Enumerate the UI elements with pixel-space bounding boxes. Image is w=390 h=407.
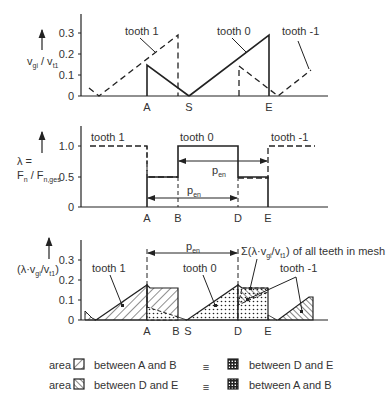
label-tooth-minus1-bot: tooth -1 (280, 262, 317, 274)
legend-text2: between A and B (249, 379, 332, 391)
xmark-A-mid: A (143, 212, 151, 224)
legend-swatch-hatch-fwd (74, 379, 84, 389)
legend-row-2: area between D and E ≡ between A and B (49, 379, 332, 393)
area-tooth-minus1-main (278, 297, 313, 320)
legend-text2: between D and E (249, 359, 333, 371)
leader-sum (250, 259, 257, 289)
legend-text: between A and B (94, 359, 177, 371)
leader-dot-tooth-minus1-a (246, 298, 249, 301)
label-tooth-1-mid: tooth 1 (91, 131, 125, 143)
leader-tooth-0-top (232, 38, 246, 52)
chart-sliding-velocity: vgi / vt1 0 0.1 0.2 0.3 tooth 1 tooth 0 … (27, 14, 328, 113)
area-tooth-minus1-tail (268, 315, 277, 320)
ytick-label: 0.1 (59, 294, 74, 306)
leader-tooth-1-top (140, 38, 155, 52)
xmark-A-bot: A (143, 325, 151, 337)
series-tooth-1-active (147, 65, 189, 96)
ytick-label: 0.1 (59, 69, 74, 81)
xmark-E-top: E (265, 101, 272, 113)
yticks-mid: 0 0.5 1.0 (59, 140, 81, 213)
label-tooth-minus1-mid: tooth -1 (271, 131, 308, 143)
sum-label: Σ(λ·vgi/vt1) of all teeth in mesh (241, 245, 385, 260)
area-tooth-0-main (187, 285, 238, 320)
chart-load-share: λ = Fn / Fn,ges 0 0.5 1.0 pen pen tooth … (17, 126, 328, 224)
dimension-label-AD: pen (187, 184, 201, 198)
label-tooth-0-bot: tooth 0 (183, 262, 217, 274)
ytick-label: 0.3 (59, 254, 74, 266)
ytick-label: 0.5 (59, 171, 74, 183)
ylabel-mid-line1: λ = (17, 155, 32, 167)
yticks-top: 0 0.1 0.2 0.3 (59, 27, 81, 102)
xmark-E-mid: E (264, 212, 271, 224)
ytick-label: 0 (68, 314, 74, 326)
xmark-A-top: A (143, 101, 151, 113)
chart-product: (λ·vgi/vt1) 0 0.1 0.2 0.3 (17, 238, 385, 337)
series-tooth-1-dashed (89, 35, 178, 96)
label-tooth-0-top: tooth 0 (217, 25, 251, 37)
series-tooth-minus1-dashed (239, 66, 311, 96)
xmark-S-bot: S (184, 325, 191, 337)
leader-dot-sum (249, 287, 252, 290)
label-tooth-0-mid: tooth 0 (180, 131, 214, 143)
xmark-D-bot: D (234, 325, 242, 337)
xmark-S-top: S (185, 101, 192, 113)
ytick-label: 1.0 (59, 140, 74, 152)
ytick-label: 0.3 (59, 27, 74, 39)
legend-prefix: area (49, 379, 72, 391)
series-tooth-minus1-mid (238, 146, 315, 178)
legend-swatch-hatch-back (74, 359, 84, 369)
legend-prefix: area (49, 359, 72, 371)
label-tooth-minus1-top: tooth -1 (282, 25, 319, 37)
ylabel-mid-line2: Fn / Fn,ges (17, 169, 61, 184)
xmark-B-mid: B (174, 212, 181, 224)
label-tooth-1-bot: tooth 1 (92, 262, 126, 274)
ylabel-top: vgi / vt1 (27, 55, 59, 70)
ytick-label: 0 (68, 90, 74, 102)
series-tooth-0 (189, 35, 269, 96)
legend-swatch-dots (228, 359, 238, 369)
yticks-bot: 0 0.1 0.2 0.3 (59, 254, 81, 326)
diagram-svg: vgi / vt1 0 0.1 0.2 0.3 tooth 1 tooth 0 … (0, 0, 390, 407)
legend-row-1: area between A and B ≡ between D and E (49, 359, 333, 373)
ytick-label: 0 (68, 201, 74, 213)
label-tooth-1-top: tooth 1 (125, 25, 159, 37)
ylabel-bot: (λ·vgi/vt1) (17, 263, 59, 278)
leader-dot-tooth-1 (121, 304, 124, 307)
legend-equiv: ≡ (203, 361, 209, 373)
leader-tooth-minus1-top (298, 41, 309, 69)
leader-tooth-0-bot (203, 275, 215, 305)
ytick-label: 0.2 (59, 274, 74, 286)
dimension-label-bot: pen (186, 240, 200, 254)
area-tooth-1 (85, 311, 96, 320)
leader-dot-tooth-minus1-b (300, 310, 303, 313)
leader-dot-tooth-0 (214, 304, 217, 307)
legend-text: between D and E (94, 379, 178, 391)
legend-equiv: ≡ (203, 381, 209, 393)
diagram-stage: vgi / vt1 0 0.1 0.2 0.3 tooth 1 tooth 0 … (0, 0, 390, 407)
xmark-E-bot: E (264, 325, 271, 337)
dimension-label-BE: pen (212, 164, 226, 178)
xmark-D-mid: D (234, 212, 242, 224)
ytick-label: 0.2 (59, 48, 74, 60)
xmark-B-bot: B (172, 325, 179, 337)
series-tooth-1-mid (90, 146, 178, 177)
legend: area between A and B ≡ between D and E a… (49, 359, 333, 393)
legend-swatch-dots (228, 379, 238, 389)
leader-tooth-1-bot (110, 275, 122, 305)
